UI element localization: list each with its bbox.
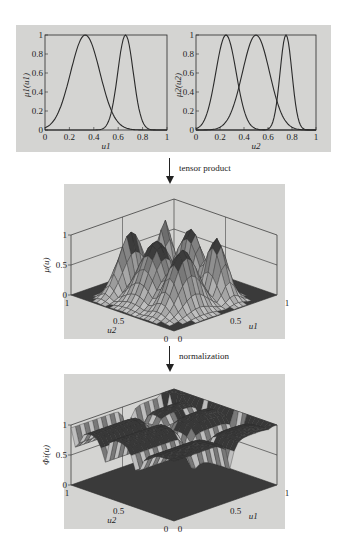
left-plot: 00.20.40.60.8100.20.40.60.81 u1 μ1(u1) — [21, 30, 169, 151]
normalized-surface-svg: 00.51Φi(u)10.5000.51u2u1 — [64, 374, 285, 529]
y-tick-label: 0.8 — [32, 49, 44, 59]
y-tick-label: 1 — [39, 30, 44, 40]
x-tick-label: 0.8 — [286, 132, 298, 142]
z-tick-label: 0.5 — [56, 450, 68, 460]
down-arrow-icon — [165, 346, 175, 372]
x-tick-label: 0 — [194, 132, 199, 142]
u2-axis-label: u2 — [107, 515, 117, 525]
normalization-step: normalization — [165, 346, 229, 372]
normalized-surface-panel: 00.51Φi(u)10.5000.51u2u1 — [64, 374, 285, 529]
membership-curve — [45, 35, 167, 130]
right-plot: 00.20.40.60.8100.20.40.60.81 u2 μ2(u2) — [173, 30, 318, 151]
y-tick-label: 0 — [39, 125, 44, 135]
x-tick-label: 0.2 — [64, 132, 75, 142]
tensor-product-surface-svg: 00.51μ(u)10.5000.51u2u1 — [64, 184, 285, 339]
z-tick-label: 0.5 — [56, 260, 68, 270]
u2-axis-label: u2 — [107, 325, 117, 335]
x-tick-label: 0.6 — [113, 132, 125, 142]
tensor-product-label: tensor product — [179, 163, 231, 173]
u1-tick-label: 0.5 — [230, 506, 242, 516]
down-arrow-icon — [165, 158, 175, 184]
y-tick-label: 1 — [190, 30, 195, 40]
surface-mesh — [71, 389, 277, 471]
membership-plots-svg: 00.20.40.60.8100.20.40.60.81 u1 μ1(u1) 0… — [16, 25, 331, 152]
u1-axis-label: u1 — [249, 321, 258, 331]
y-tick-label: 0.6 — [183, 68, 195, 78]
y-tick-label: 0 — [190, 125, 195, 135]
y-tick-label: 0.4 — [183, 87, 195, 97]
left-ylabel: μ1(u1) — [21, 73, 31, 98]
right-xlabel: u2 — [252, 141, 262, 151]
x-tick-label: 1 — [314, 132, 319, 142]
right-ylabel: μ2(u2) — [173, 73, 183, 98]
membership-curve — [45, 35, 167, 130]
x-tick-label: 0.4 — [88, 132, 100, 142]
u2-tick-label: 1 — [65, 298, 70, 308]
u1-axis-label: u1 — [249, 511, 258, 521]
x-tick-label: 0 — [43, 132, 48, 142]
y-tick-label: 0.2 — [32, 106, 43, 116]
u2-tick-label: 0 — [164, 524, 169, 534]
u1-tick-label: 0 — [178, 524, 183, 534]
y-tick-label: 0.8 — [183, 49, 195, 59]
x-tick-label: 0.4 — [238, 132, 250, 142]
tensor-product-step: tensor product — [165, 158, 231, 184]
z-tick-label: 1 — [63, 420, 68, 430]
membership-functions-panel: 00.20.40.60.8100.20.40.60.81 u1 μ1(u1) 0… — [16, 25, 331, 152]
z-axis-label: Φi(u) — [41, 445, 51, 465]
u1-tick-label: 1 — [285, 298, 290, 308]
y-tick-label: 0.4 — [32, 87, 44, 97]
left-xlabel: u1 — [102, 141, 111, 151]
x-tick-label: 0.8 — [137, 132, 149, 142]
x-tick-label: 0.2 — [214, 132, 225, 142]
z-tick-label: 1 — [63, 230, 68, 240]
u2-tick-label: 0 — [164, 334, 169, 344]
x-tick-label: 1 — [165, 132, 170, 142]
y-tick-label: 0.2 — [183, 106, 194, 116]
u1-tick-label: 0.5 — [230, 316, 242, 326]
y-tick-label: 0.6 — [32, 68, 44, 78]
u1-tick-label: 0 — [178, 334, 183, 344]
z-axis-label: μ(u) — [41, 257, 51, 273]
normalization-label: normalization — [179, 351, 229, 361]
u1-tick-label: 1 — [285, 488, 290, 498]
u2-tick-label: 1 — [65, 488, 70, 498]
tensor-product-surface-panel: 00.51μ(u)10.5000.51u2u1 — [64, 184, 285, 339]
x-tick-label: 0.6 — [262, 132, 274, 142]
